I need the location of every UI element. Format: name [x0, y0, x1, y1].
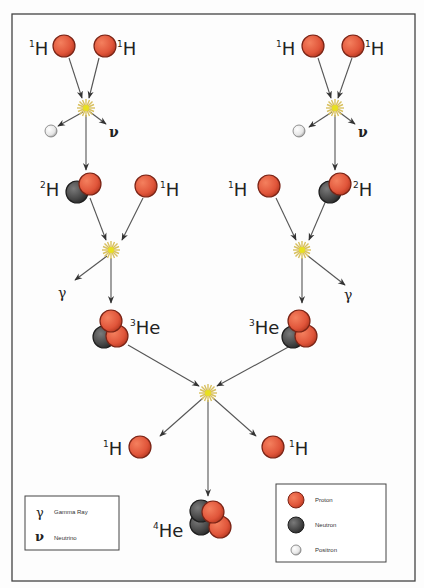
- isotope-label: 3He: [249, 317, 279, 338]
- isotope-label: 2H: [353, 179, 372, 200]
- positron-icon: [291, 545, 301, 555]
- isotope-label: 1H: [103, 438, 122, 459]
- helium3-nucleus-right: [282, 310, 317, 348]
- pp-chain-diagram: 1H 1H 1H 1H 2H 1H 1H 2H 3He 3He 1H 1H 4H…: [0, 0, 424, 588]
- gamma-symbol: γ: [344, 287, 352, 303]
- legend-label: Neutron: [315, 522, 336, 528]
- helium4-nucleus: [190, 500, 231, 538]
- legend-label: Positron: [315, 547, 337, 553]
- isotope-label: 2H: [40, 179, 59, 200]
- proton-icon: [262, 436, 284, 458]
- proton-icon: [129, 436, 151, 458]
- fusion-flash-icon: [102, 241, 120, 259]
- isotope-label: 1H: [276, 38, 295, 59]
- legend-particles: Proton Neutron Positron: [276, 484, 386, 562]
- legend-symbols: γ Gamma Ray ν Neutrino: [25, 496, 119, 550]
- neutron-icon: [288, 517, 304, 533]
- gamma-symbol: γ: [58, 285, 66, 301]
- isotope-label: 4He: [153, 520, 183, 541]
- gamma-symbol: γ: [36, 505, 44, 520]
- isotope-label: 1H: [228, 179, 247, 200]
- neutrino-symbol: ν: [35, 529, 44, 544]
- proton-icon: [94, 35, 116, 57]
- deuterium-nucleus-left: [66, 173, 101, 203]
- proton-icon: [342, 35, 364, 57]
- proton-icon: [288, 492, 304, 508]
- fusion-flash-icon: [77, 99, 95, 117]
- legend-label: Neutrino: [54, 535, 77, 541]
- neutrino-symbol: ν: [109, 124, 119, 140]
- fusion-flash-icon: [326, 99, 344, 117]
- isotope-label: 1H: [29, 38, 48, 59]
- fusion-flash-icon: [293, 241, 311, 259]
- positron-icon: [293, 125, 305, 137]
- isotope-label: 1H: [365, 38, 384, 59]
- legend-label: Gamma Ray: [54, 509, 88, 515]
- proton-icon: [302, 35, 324, 57]
- isotope-label: 1H: [289, 438, 308, 459]
- isotope-label: 1H: [117, 38, 136, 59]
- isotope-label: 1H: [160, 179, 179, 200]
- positron-icon: [45, 125, 57, 137]
- legend-label: Proton: [315, 497, 333, 503]
- proton-icon: [135, 175, 157, 197]
- reaction-arrows: [58, 58, 355, 496]
- proton-icon: [53, 35, 75, 57]
- proton-icon: [258, 175, 280, 197]
- isotope-label: 3He: [130, 317, 160, 338]
- neutrino-symbol: ν: [358, 124, 368, 140]
- helium3-nucleus-left: [93, 310, 128, 348]
- fusion-flash-icon: [199, 384, 217, 402]
- deuterium-nucleus-right: [319, 173, 351, 203]
